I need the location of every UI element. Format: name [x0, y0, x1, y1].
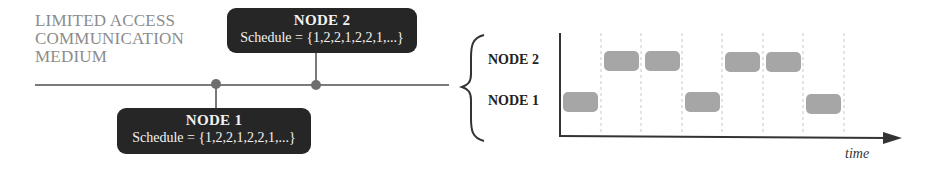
- x-axis-arrow-icon: [883, 132, 902, 144]
- node1-dot: [211, 79, 221, 89]
- node2-dot: [311, 80, 321, 90]
- row-label-node2: NODE 2: [488, 52, 539, 68]
- slot-block-node2: [645, 51, 680, 71]
- curly-brace-icon: [462, 35, 484, 141]
- slot-block-node1: [806, 94, 841, 114]
- node2-schedule: Schedule = {1,2,2,1,2,2,1,...}: [227, 29, 417, 46]
- node2-title: NODE 2: [227, 12, 417, 29]
- row-label-node1: NODE 1: [488, 93, 539, 109]
- x-axis: [559, 136, 888, 138]
- slot-blocks: [563, 51, 841, 114]
- slot-block-node2: [766, 52, 801, 72]
- slot-block-node1: [563, 92, 598, 112]
- x-axis-label: time: [845, 146, 869, 162]
- node1-title: NODE 1: [117, 112, 311, 129]
- node2-box: NODE 2 Schedule = {1,2,2,1,2,2,1,...}: [227, 8, 417, 53]
- slot-block-node2: [725, 52, 760, 72]
- time-grid: [601, 33, 844, 135]
- node1-box: NODE 1 Schedule = {1,2,2,1,2,2,1,...}: [117, 108, 311, 154]
- slot-block-node1: [685, 92, 720, 112]
- node1-schedule: Schedule = {1,2,2,1,2,2,1,...}: [117, 129, 311, 146]
- slot-block-node2: [604, 51, 639, 71]
